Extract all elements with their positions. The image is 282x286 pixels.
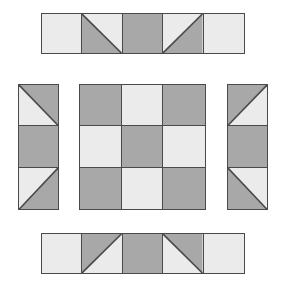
patch-solid-dark: [163, 168, 205, 209]
patch-solid-dark: [80, 85, 122, 126]
unit-left-strip: [18, 84, 59, 210]
patch-solid-light: [122, 85, 164, 126]
patch-solid-dark: [228, 126, 267, 167]
unit-bottom-strip: [41, 233, 245, 274]
patch-half-square-triangle: [19, 168, 58, 209]
patch-solid-dark: [19, 126, 58, 167]
patch-solid-light: [163, 126, 205, 167]
patch-solid-dark: [123, 234, 163, 273]
patch-solid-dark: [163, 85, 205, 126]
patch-half-square-triangle: [82, 14, 122, 53]
patch-solid-light: [42, 234, 82, 273]
unit-top-strip: [41, 13, 245, 54]
patch-half-square-triangle: [82, 234, 122, 273]
patch-solid-light: [204, 14, 244, 53]
patch-solid-light: [204, 234, 244, 273]
patch-half-square-triangle: [163, 234, 203, 273]
patch-solid-dark: [80, 168, 122, 209]
patch-solid-light: [122, 168, 164, 209]
patch-half-square-triangle: [19, 85, 58, 126]
patch-half-square-triangle: [228, 168, 267, 209]
patch-solid-dark: [123, 14, 163, 53]
patch-solid-light: [80, 126, 122, 167]
patch-solid-dark: [122, 126, 164, 167]
unit-right-strip: [227, 84, 268, 210]
quilt-diagram: [0, 0, 282, 286]
patch-solid-light: [42, 14, 82, 53]
patch-half-square-triangle: [228, 85, 267, 126]
patch-half-square-triangle: [163, 14, 203, 53]
unit-center-block: [79, 84, 206, 210]
